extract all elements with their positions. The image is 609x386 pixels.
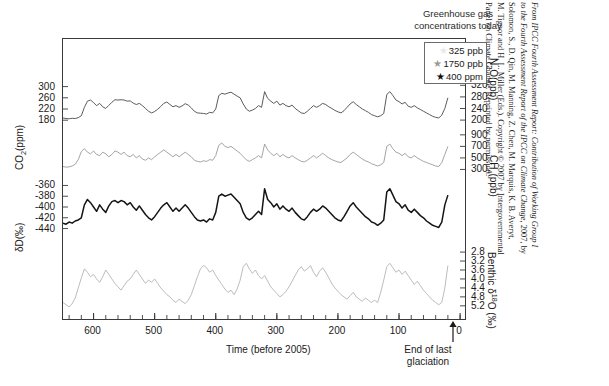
legend-item-n2o: ★ 325 ppb bbox=[425, 44, 486, 57]
axis-title-co2: CO2(ppm) bbox=[14, 125, 28, 170]
credit-line-2: to the Fourth Assessment Report of the I… bbox=[517, 2, 528, 382]
tick-ch4-1: 700 bbox=[471, 140, 488, 151]
legend-label-n2o: 325 ppb bbox=[449, 44, 483, 57]
tick-dD-4: -440 bbox=[35, 222, 55, 233]
tick-dD-2: -400 bbox=[35, 201, 55, 212]
figure-root: Greenhouse gas concentrations today ★ 32… bbox=[0, 0, 609, 386]
tick-co2-3: 180 bbox=[38, 114, 55, 125]
series-dD bbox=[63, 189, 448, 228]
series-ch4 bbox=[63, 143, 448, 167]
tick-n2o-1: 280 bbox=[471, 90, 488, 101]
tick-time-3: 300 bbox=[267, 325, 284, 336]
tick-time-2: 400 bbox=[206, 325, 223, 336]
tick-benthic-6: 5.2 bbox=[471, 299, 485, 310]
axis-title-dD: δD(‰) bbox=[14, 223, 25, 252]
legend-item-co2: ★ 400 ppm bbox=[425, 70, 486, 83]
tick-ch4-2: 500 bbox=[471, 151, 488, 162]
end-of-glaciation-line2: glaciation bbox=[404, 356, 451, 368]
credit-line-3: Solomon, S., D. Qin, M. Manning, Z. Chen… bbox=[506, 2, 517, 382]
end-of-glaciation-line1: End of last bbox=[404, 344, 451, 356]
tick-ch4-3: 300 bbox=[471, 163, 488, 174]
legend: ★ 325 ppb ★ 1750 ppb ★ 400 ppm bbox=[424, 42, 487, 84]
tick-co2-2: 220 bbox=[38, 103, 55, 114]
star-icon-n2o: ★ bbox=[438, 44, 449, 57]
chart-canvas bbox=[63, 39, 465, 319]
tick-dD-3: -420 bbox=[35, 211, 55, 222]
legend-label-co2: 400 ppm bbox=[446, 70, 483, 83]
tick-time-4: 200 bbox=[329, 325, 346, 336]
legend-label-ch4: 1750 ppb bbox=[443, 57, 483, 70]
tick-co2-1: 260 bbox=[38, 91, 55, 102]
tick-n2o-2: 240 bbox=[471, 102, 488, 113]
tick-co2-0: 300 bbox=[38, 80, 55, 91]
glaciation-arrow-icon bbox=[446, 321, 460, 343]
credit-line-4: M. Tignor and H. L. Miller (Eds.). Copyr… bbox=[494, 2, 505, 382]
tick-time-0: 600 bbox=[84, 325, 101, 336]
legend-item-ch4: ★ 1750 ppb bbox=[425, 57, 486, 70]
tick-ch4-0: 900 bbox=[471, 128, 488, 139]
tick-time-1: 500 bbox=[145, 325, 162, 336]
tick-dD-1: -380 bbox=[35, 190, 55, 201]
series-benthic bbox=[63, 263, 448, 307]
axis-title-time: Time (before 2005) bbox=[226, 344, 311, 355]
series-co2 bbox=[63, 92, 448, 119]
source-credit: From IPCC Fourth Assessment Report: Cont… bbox=[483, 2, 540, 382]
credit-line-1: From IPCC Fourth Assessment Report: Cont… bbox=[529, 2, 540, 382]
plot-area bbox=[62, 38, 466, 320]
star-icon-co2: ★ bbox=[435, 70, 446, 83]
tick-time-5: 100 bbox=[390, 325, 407, 336]
tick-n2o-3: 200 bbox=[471, 114, 488, 125]
star-icon-ch4: ★ bbox=[432, 57, 443, 70]
end-of-glaciation-annotation: End of last glaciation bbox=[404, 344, 451, 368]
tick-dD-0: -360 bbox=[35, 179, 55, 190]
